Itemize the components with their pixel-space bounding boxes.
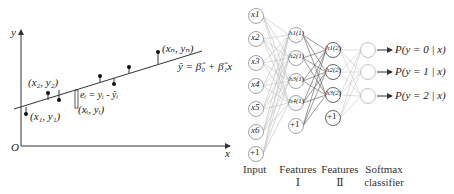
caption-softmax-line1: Softmax xyxy=(360,163,408,176)
softmax-node xyxy=(361,43,376,58)
data-point xyxy=(156,50,160,64)
softmax-node xyxy=(361,65,376,80)
hidden2-label: h1(2) xyxy=(326,44,341,52)
input-node-label: x3 xyxy=(251,56,260,66)
residual-label: eᵢ = yᵢ - ŷᵢ xyxy=(80,89,118,100)
point-label-n: (xₙ, yₙ) xyxy=(162,42,194,55)
data-point xyxy=(24,107,28,116)
input-node-label: x1 xyxy=(251,9,260,19)
caption-features2-line1: Features xyxy=(318,163,362,176)
regression-plot xyxy=(14,30,230,146)
output-prob-2: P(y = 2 | x) xyxy=(395,89,446,101)
hidden2-label: h3(2) xyxy=(326,89,341,97)
point-label-2: (x₂, y₂) xyxy=(28,76,58,88)
hidden1-bias-label: +1 xyxy=(290,119,300,129)
caption-features1: Features Ⅰ xyxy=(276,163,320,189)
softmax-node xyxy=(361,89,376,104)
input-bias-label: +1 xyxy=(250,147,260,157)
caption-features1-line2: Ⅰ xyxy=(276,176,320,189)
point-label-i: (xᵢ, yᵢ) xyxy=(78,103,104,115)
origin-label: O xyxy=(11,141,19,153)
edges-f2-to-softmax xyxy=(340,50,361,118)
hidden2-bias-label: +1 xyxy=(327,111,337,121)
output-arrows xyxy=(377,50,392,96)
data-point xyxy=(112,78,116,86)
hidden2-label: h2(2) xyxy=(326,66,341,74)
caption-features2: Features Ⅱ xyxy=(318,163,362,189)
caption-features1-line1: Features xyxy=(276,163,320,176)
fit-equation: ŷ = β̂₀ + β̂₁x xyxy=(178,60,232,72)
caption-softmax-line2: classifier xyxy=(360,176,408,189)
hidden1-label: h1(1) xyxy=(289,29,304,37)
y-axis-label: y xyxy=(11,26,16,38)
edges-input-to-f1 xyxy=(263,16,289,154)
input-node-label: x6 xyxy=(251,125,260,135)
caption-features2-line2: Ⅱ xyxy=(318,176,362,189)
data-point xyxy=(127,65,131,73)
caption-softmax: Softmax classifier xyxy=(360,163,408,189)
caption-input: Input xyxy=(243,163,266,176)
hidden1-label: h2(1) xyxy=(289,52,304,60)
edges-f1-to-f2 xyxy=(303,35,326,126)
data-point xyxy=(98,74,102,82)
x-axis-label: x xyxy=(225,147,230,159)
hidden1-label: h4(1) xyxy=(289,97,304,105)
point-label-1: (x₁, y₁) xyxy=(30,110,60,122)
output-prob-1: P(y = 1 | x) xyxy=(395,65,446,77)
hidden1-label: h3(1) xyxy=(289,75,304,83)
input-node-label: x5 xyxy=(251,102,260,112)
input-node-label: x4 xyxy=(251,79,260,89)
input-node-label: x2 xyxy=(251,32,260,42)
output-prob-0: P(y = 0 | x) xyxy=(395,43,446,55)
softmax-layer xyxy=(361,43,376,104)
